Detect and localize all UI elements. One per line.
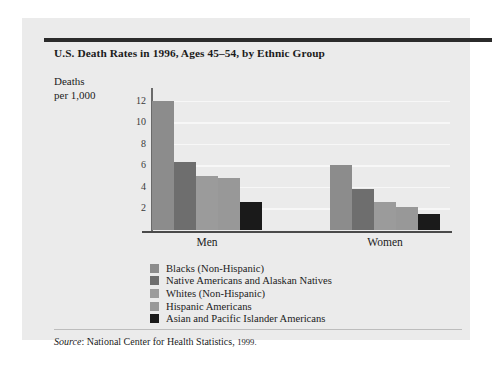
legend-swatch-icon-3 [150,302,159,311]
x-axis-line [142,231,452,233]
bar-men-0 [152,101,174,230]
group-label-women: Women [325,236,445,248]
legend-label-2: Whites (Non-Hispanic) [166,288,265,299]
gridline-12 [152,101,450,103]
legend-label-4: Asian and Pacific Islander Americans [166,313,325,324]
top-rule [44,38,492,42]
legend-swatch-icon-2 [150,289,159,298]
bar-women-2 [374,202,396,230]
bar-women-4 [418,214,440,230]
divider [54,329,462,330]
legend-item-0: Blacks (Non-Hispanic) [150,262,332,275]
y-tick-label-8: 8 [120,138,146,149]
legend-item-1: Native Americans and Alaskan Natives [150,275,332,288]
gridline-8 [152,144,450,146]
group-label-men: Men [147,236,267,248]
gridline-10 [152,122,450,124]
y-tick-label-6: 6 [120,159,146,170]
bar-men-3 [218,178,240,230]
legend-item-2: Whites (Non-Hispanic) [150,287,332,300]
legend-label-0: Blacks (Non-Hispanic) [166,263,264,274]
bar-men-2 [196,176,218,230]
y-tick-label-4: 4 [120,181,146,192]
y-axis-title-line-1: Deaths [54,75,142,89]
legend-swatch-icon-1 [150,276,159,285]
chart-title: U.S. Death Rates in 1996, Ages 45–54, by… [54,47,474,59]
legend-swatch-icon-0 [150,264,159,273]
bar-women-3 [396,207,418,230]
y-tick-label-12: 12 [120,95,146,106]
chart-legend: Blacks (Non-Hispanic)Native Americans an… [150,262,332,325]
source-year: 1999. [237,337,256,347]
source-label: Source [54,336,81,347]
source-note: Source: National Center for Health Stati… [54,336,257,347]
legend-swatch-icon-4 [150,314,159,323]
source-text: : National Center for Health Statistics, [81,336,234,347]
legend-item-4: Asian and Pacific Islander Americans [150,312,332,325]
bar-men-4 [240,202,262,230]
bar-men-1 [174,162,196,230]
legend-label-3: Hispanic Americans [166,301,252,312]
legend-label-1: Native Americans and Alaskan Natives [166,275,332,286]
bar-women-0 [330,165,352,230]
bar-women-1 [352,189,374,230]
gridline-6 [152,165,450,167]
y-tick-label-10: 10 [120,116,146,127]
figure-panel: U.S. Death Rates in 1996, Ages 45–54, by… [22,18,470,340]
legend-item-3: Hispanic Americans [150,300,332,313]
y-tick-label-2: 2 [120,202,146,213]
plot-area [152,90,450,230]
